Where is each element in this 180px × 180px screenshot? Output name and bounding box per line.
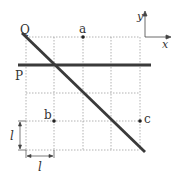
axis-x-label: x (162, 38, 169, 51)
axis-y-label: y (136, 10, 144, 23)
vertical-length-label: l (10, 129, 14, 143)
line-q (22, 33, 145, 152)
vertical-dimension-arrow-icon (18, 121, 26, 150)
point-b (52, 119, 56, 123)
axes-icon (143, 11, 171, 39)
line-p-label: P (15, 69, 23, 83)
point-c-label: c (144, 112, 151, 126)
point-c (138, 119, 142, 123)
horizontal-dimension-arrow-icon (26, 150, 54, 158)
horizontal-length-label: l (38, 160, 42, 174)
diagram-canvas: y x Q P a b c l l (0, 0, 180, 180)
point-a-label: a (79, 22, 86, 36)
line-q-label: Q (20, 23, 30, 37)
point-b-label: b (44, 108, 52, 122)
